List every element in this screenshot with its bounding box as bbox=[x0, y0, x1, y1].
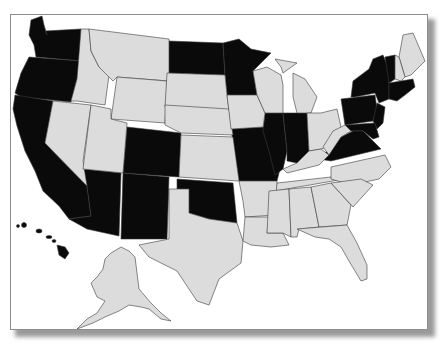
state-nm[interactable] bbox=[121, 173, 169, 239]
state-nd[interactable] bbox=[169, 41, 225, 75]
map-frame: United States map bbox=[10, 14, 428, 330]
state-wy[interactable] bbox=[111, 77, 167, 123]
state-or[interactable] bbox=[15, 57, 81, 102]
state-ks[interactable] bbox=[179, 135, 239, 181]
state-co[interactable] bbox=[123, 127, 181, 177]
state-hi[interactable] bbox=[17, 223, 70, 260]
state-wa[interactable] bbox=[29, 16, 81, 61]
state-ma-ct-ri[interactable] bbox=[389, 79, 415, 101]
state-pa[interactable] bbox=[341, 95, 377, 125]
state-fl[interactable] bbox=[297, 225, 367, 281]
state-ms[interactable] bbox=[267, 189, 291, 237]
state-ne[interactable] bbox=[165, 105, 233, 135]
us-map bbox=[11, 15, 428, 330]
